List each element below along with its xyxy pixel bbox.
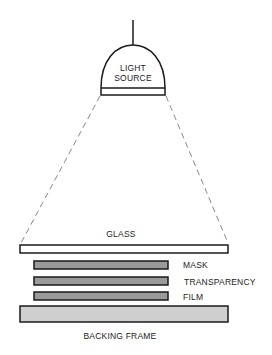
light-source-lamp: LIGHT SOURCE <box>101 45 165 95</box>
light-source-label-line2: SOURCE <box>114 73 152 83</box>
film-layer <box>34 292 168 300</box>
mask-layer <box>34 261 168 269</box>
transparency-label: TRANSPARENCY <box>184 277 256 287</box>
backing-frame-label: BACKING FRAME <box>84 331 157 341</box>
backing-frame-layer <box>20 306 228 322</box>
glass-label: GLASS <box>106 229 135 239</box>
transparency-layer <box>34 277 168 285</box>
light-beam-left <box>21 96 100 243</box>
mask-label: MASK <box>183 260 208 270</box>
light-beam-right <box>166 96 228 243</box>
film-label: FILM <box>183 292 203 302</box>
glass-layer <box>20 245 228 253</box>
light-exposure-diagram: LIGHT SOURCE GLASS MASK TRANSPARENCY FIL… <box>0 0 272 355</box>
light-source-label-line1: LIGHT <box>120 63 146 73</box>
